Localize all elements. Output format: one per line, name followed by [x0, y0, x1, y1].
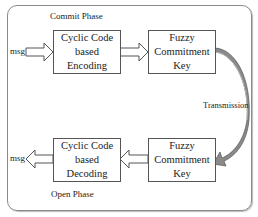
decoding-box: Cyclic Code based Decoding [53, 138, 121, 182]
open-key-box-line1: Fuzzy [169, 139, 195, 153]
msg-input-label: msg [10, 46, 25, 56]
decoding-box-line1: Cyclic Code [61, 139, 113, 153]
commit-key-box-line1: Fuzzy [169, 31, 195, 45]
decoding-box-line2: based Decoding [54, 153, 120, 181]
msg-output-arrow [26, 150, 53, 168]
commit-key-box: Fuzzy Commitment Key [148, 30, 216, 74]
open-phase-label: Open Phase [51, 189, 94, 199]
commit-key-box-line2: Commitment Key [149, 45, 215, 73]
open-key-box-line2: Commitment Key [149, 153, 215, 181]
msg-output-label: msg [10, 153, 25, 163]
commit-phase-label: Commit Phase [50, 11, 103, 21]
encode-to-key-arrow [120, 43, 148, 61]
encoding-box-line2: based Encoding [54, 45, 120, 73]
encoding-box-line1: Cyclic Code [61, 31, 113, 45]
open-key-box: Fuzzy Commitment Key [148, 138, 216, 182]
msg-input-arrow [26, 43, 53, 61]
key-to-decode-arrow [120, 150, 148, 168]
transmission-label: Transmission [203, 100, 249, 110]
encoding-box: Cyclic Code based Encoding [53, 30, 121, 74]
